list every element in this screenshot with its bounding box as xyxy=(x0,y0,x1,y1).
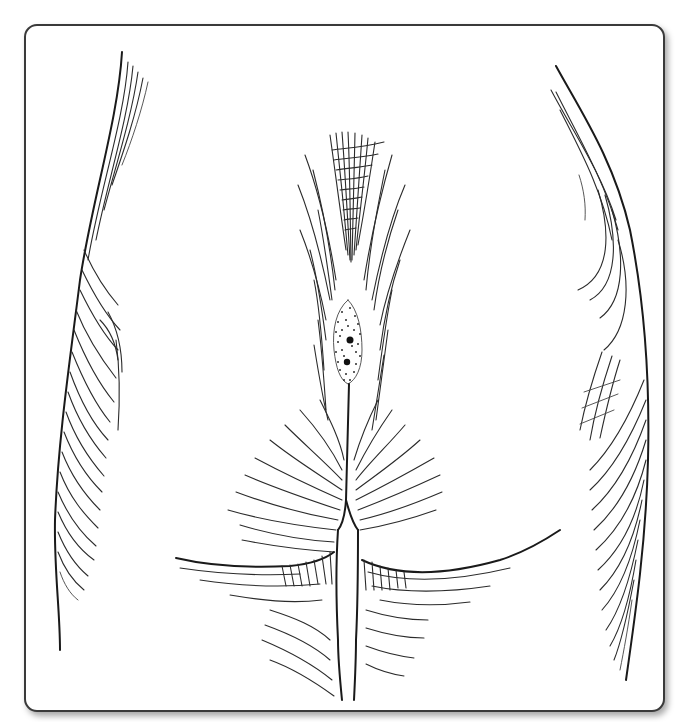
left-buttock-hatching xyxy=(228,400,344,552)
right-buttock-hatching xyxy=(354,400,442,530)
right-flank-contour xyxy=(551,66,648,680)
right-gluteal-fold xyxy=(362,530,560,676)
sacral-hair-tuft xyxy=(298,132,410,430)
sinus-pit-lower xyxy=(344,359,350,365)
pilonidal-sinus-area xyxy=(334,300,362,384)
anatomy-illustration xyxy=(0,0,698,722)
sinus-pit-upper xyxy=(347,337,354,344)
left-flank-contour xyxy=(55,52,148,650)
natal-cleft xyxy=(337,384,359,700)
left-gluteal-fold xyxy=(176,552,334,696)
